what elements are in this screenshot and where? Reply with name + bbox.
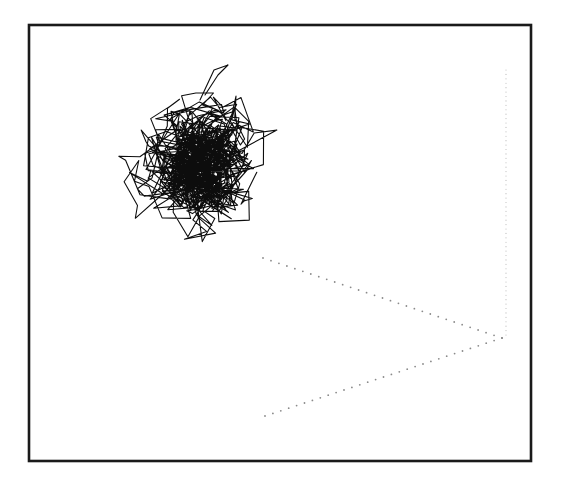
guide-dot xyxy=(383,376,385,378)
guide-dot xyxy=(505,290,506,291)
guide-dot xyxy=(505,299,506,300)
guide-dot xyxy=(319,397,321,399)
guide-dot xyxy=(505,87,506,88)
guide-dot xyxy=(505,286,506,287)
guide-dot xyxy=(343,389,345,391)
guide-dot xyxy=(505,264,506,265)
guide-dot xyxy=(390,300,392,302)
guide-dot xyxy=(296,405,298,407)
guide-dot xyxy=(272,413,274,415)
guide-dot xyxy=(505,255,506,256)
guide-dot xyxy=(505,140,506,141)
guide-dot xyxy=(398,371,400,373)
guide-dot xyxy=(262,257,264,259)
guide-dot xyxy=(505,122,506,123)
guide-dot xyxy=(461,324,463,326)
guide-dot xyxy=(505,78,506,79)
guide-dot xyxy=(505,167,506,168)
guide-dot xyxy=(327,394,329,396)
dotted-guide-lines xyxy=(262,69,507,417)
guide-dot xyxy=(421,310,423,312)
guide-dot xyxy=(505,171,506,172)
guide-dot xyxy=(312,400,314,402)
guide-dot xyxy=(505,273,506,274)
guide-dot xyxy=(505,317,506,318)
guide-dot xyxy=(422,363,424,365)
guide-dot xyxy=(505,326,506,327)
guide-dot xyxy=(310,273,312,275)
guide-dot xyxy=(278,262,280,264)
guide-dot xyxy=(264,415,266,417)
guide-dot xyxy=(505,131,506,132)
guide-dot xyxy=(505,96,506,97)
guide-dot xyxy=(505,330,506,331)
guide-dot xyxy=(288,407,290,409)
guide-dot xyxy=(505,206,506,207)
guide-dot xyxy=(493,340,495,342)
guide-dot xyxy=(505,308,506,309)
guide-dot xyxy=(335,392,337,394)
guide-dot xyxy=(505,100,506,101)
guide-dot xyxy=(286,265,288,267)
guide-dot xyxy=(505,228,506,229)
guide-dot xyxy=(505,184,506,185)
guide-dot xyxy=(505,268,506,269)
guide-dot xyxy=(505,281,506,282)
guide-dot xyxy=(470,348,472,350)
guide-dot xyxy=(505,189,506,190)
guide-dot xyxy=(505,220,506,221)
guide-dot xyxy=(485,332,487,334)
guide-dot xyxy=(326,278,328,280)
guide-dot xyxy=(342,284,344,286)
guide-dot xyxy=(505,114,506,115)
guide-dot xyxy=(367,381,369,383)
guide-dot xyxy=(366,292,368,294)
guide-dot xyxy=(505,295,506,296)
guide-dot xyxy=(505,127,506,128)
guide-dot xyxy=(501,337,503,339)
guide-dot xyxy=(505,321,506,322)
guide-dot xyxy=(505,91,506,92)
guide-dot xyxy=(505,175,506,176)
guide-dot xyxy=(477,345,479,347)
guide-dot xyxy=(414,366,416,368)
guide-dot xyxy=(505,334,506,335)
guide-dot xyxy=(505,233,506,234)
guide-dot xyxy=(505,215,506,216)
guide-dot xyxy=(469,326,471,328)
guide-dot xyxy=(334,281,336,283)
guide-dot xyxy=(430,361,432,363)
guide-dot xyxy=(429,313,431,315)
guide-dot xyxy=(505,197,506,198)
guide-dot xyxy=(505,136,506,137)
walk-spike xyxy=(200,65,228,100)
guide-dot xyxy=(505,211,506,212)
guide-dot xyxy=(505,158,506,159)
guide-dot xyxy=(505,312,506,313)
guide-dot xyxy=(359,384,361,386)
guide-dot xyxy=(505,118,506,119)
guide-dot xyxy=(294,268,296,270)
guide-dot xyxy=(437,316,439,318)
random-walk-trajectory xyxy=(119,65,277,242)
guide-dot xyxy=(505,109,506,110)
guide-dot xyxy=(505,250,506,251)
guide-dot xyxy=(398,302,400,304)
guide-dot xyxy=(453,321,455,323)
walk-path xyxy=(119,93,277,242)
guide-dot xyxy=(454,353,456,355)
guide-dot xyxy=(406,368,408,370)
guide-dot xyxy=(505,69,506,70)
guide-dot xyxy=(382,297,384,299)
guide-dot xyxy=(505,153,506,154)
guide-dot xyxy=(446,355,448,357)
guide-dot xyxy=(505,105,506,106)
guide-dot xyxy=(304,402,306,404)
trajectory-plot xyxy=(0,0,561,489)
guide-dot xyxy=(462,350,464,352)
guide-dot xyxy=(505,149,506,150)
guide-dot xyxy=(505,193,506,194)
guide-dot xyxy=(358,289,360,291)
guide-dot xyxy=(505,74,506,75)
guide-dot xyxy=(413,308,415,310)
